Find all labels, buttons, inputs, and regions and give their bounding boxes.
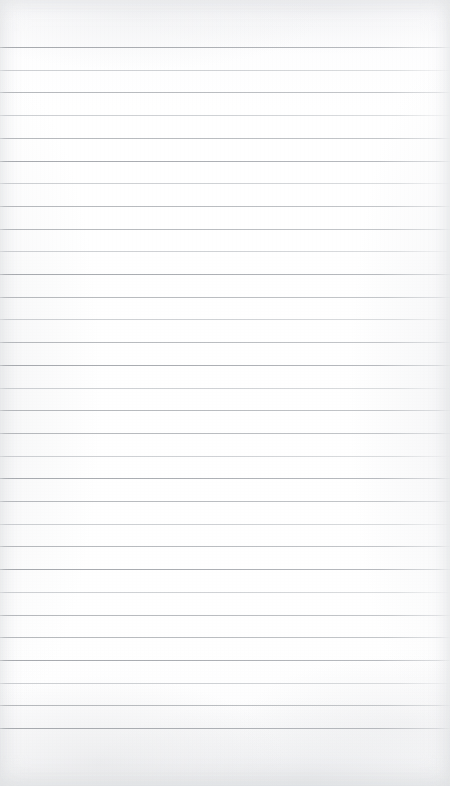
rule-line (0, 115, 450, 116)
rule-line (0, 501, 450, 502)
rule-line (0, 161, 450, 162)
rule-line (0, 206, 450, 207)
rule-line (0, 660, 450, 661)
rule-line (0, 615, 450, 616)
rule-line (0, 342, 450, 343)
rule-line (0, 274, 450, 275)
scanned-paper-sheet (0, 0, 450, 786)
rule-line (0, 365, 450, 366)
rule-line (0, 410, 450, 411)
rule-line (0, 433, 450, 434)
rule-line (0, 592, 450, 593)
rule-line (0, 138, 450, 139)
rule-line (0, 183, 450, 184)
rule-line (0, 705, 450, 706)
rule-line (0, 319, 450, 320)
rule-line (0, 92, 450, 93)
rule-line (0, 388, 450, 389)
rule-line (0, 546, 450, 547)
rule-line (0, 524, 450, 525)
ruled-lines-layer (0, 0, 450, 786)
rule-line (0, 478, 450, 479)
rule-line (0, 70, 450, 71)
rule-line (0, 728, 450, 729)
rule-line (0, 637, 450, 638)
rule-line (0, 229, 450, 230)
rule-line (0, 251, 450, 252)
rule-line (0, 569, 450, 570)
rule-line (0, 683, 450, 684)
rule-line (0, 47, 450, 48)
rule-line (0, 297, 450, 298)
rule-line (0, 456, 450, 457)
